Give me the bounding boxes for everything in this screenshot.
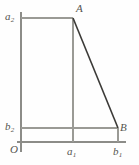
segment-ab-line (73, 18, 118, 128)
label-point-b-base: B (120, 121, 127, 133)
label-point-b: B (120, 122, 127, 133)
label-a2-subscript: 2 (11, 16, 15, 24)
label-b2-subscript: 2 (11, 126, 15, 134)
label-point-a-base: A (76, 2, 83, 14)
label-a1-base: a (67, 145, 73, 157)
label-a2: a2 (5, 11, 14, 24)
figure-canvas (0, 0, 139, 165)
label-b2: b2 (5, 121, 14, 134)
label-b1-base: b (113, 145, 119, 157)
label-point-a: A (76, 3, 83, 14)
label-b1: b1 (113, 146, 122, 159)
label-b1-subscript: 1 (119, 151, 123, 159)
label-b2-base: b (5, 120, 11, 132)
label-origin-base: O (10, 143, 18, 155)
label-origin: O (10, 144, 18, 155)
label-a1-subscript: 1 (73, 151, 77, 159)
geometry-figure: a2 A b2 B O a1 b1 (0, 0, 139, 165)
label-a1: a1 (67, 146, 76, 159)
label-a2-base: a (5, 10, 11, 22)
